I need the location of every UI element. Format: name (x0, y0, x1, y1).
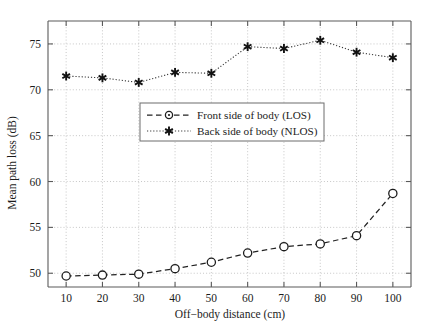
data-point-marker-circle (389, 189, 397, 197)
x-tick-label: 60 (242, 292, 254, 304)
y-tick-label: 75 (30, 38, 42, 50)
y-axis-title: Mean path loss (dB) (6, 116, 19, 210)
x-tick-label: 80 (315, 292, 327, 304)
mean-path-loss-line-chart: 505560657075 102030405060708090100 Off−b… (0, 0, 435, 328)
data-point-marker-circle (244, 249, 252, 257)
legend-label-front-side-los: Front side of body (LOS) (197, 109, 311, 122)
y-tick-label: 55 (30, 221, 42, 233)
data-point-marker-circle (352, 232, 360, 240)
y-tick-label: 60 (30, 176, 42, 188)
data-point-marker-circle (62, 272, 70, 280)
data-point-marker-circle (98, 271, 106, 279)
chart-legend[interactable]: Front side of body (LOS) Back side of bo… (140, 103, 324, 141)
data-point-marker-circle (207, 258, 215, 266)
x-tick-label: 100 (384, 292, 402, 304)
x-tick-label: 20 (97, 292, 109, 304)
y-tick-label: 50 (30, 267, 42, 279)
x-tick-label: 90 (351, 292, 363, 304)
data-point-marker-circle (171, 265, 179, 273)
data-point-marker-circle (316, 240, 324, 248)
x-axis-title: Off−body distance (cm) (175, 308, 286, 321)
legend-label-back-side-nlos: Back side of body (NLOS) (197, 125, 318, 138)
x-tick-label: 70 (278, 292, 290, 304)
x-tick-label: 30 (133, 292, 145, 304)
y-tick-label: 70 (30, 84, 42, 96)
data-point-marker-circle (135, 270, 143, 278)
legend-marker-circle-center-icon (168, 114, 170, 116)
data-point-marker-circle (280, 243, 288, 251)
x-tick-label: 10 (60, 292, 72, 304)
x-tick-label: 40 (169, 292, 181, 304)
x-tick-label: 50 (206, 292, 218, 304)
y-tick-label: 65 (30, 130, 42, 142)
chart-figure: 505560657075 102030405060708090100 Off−b… (0, 0, 435, 328)
